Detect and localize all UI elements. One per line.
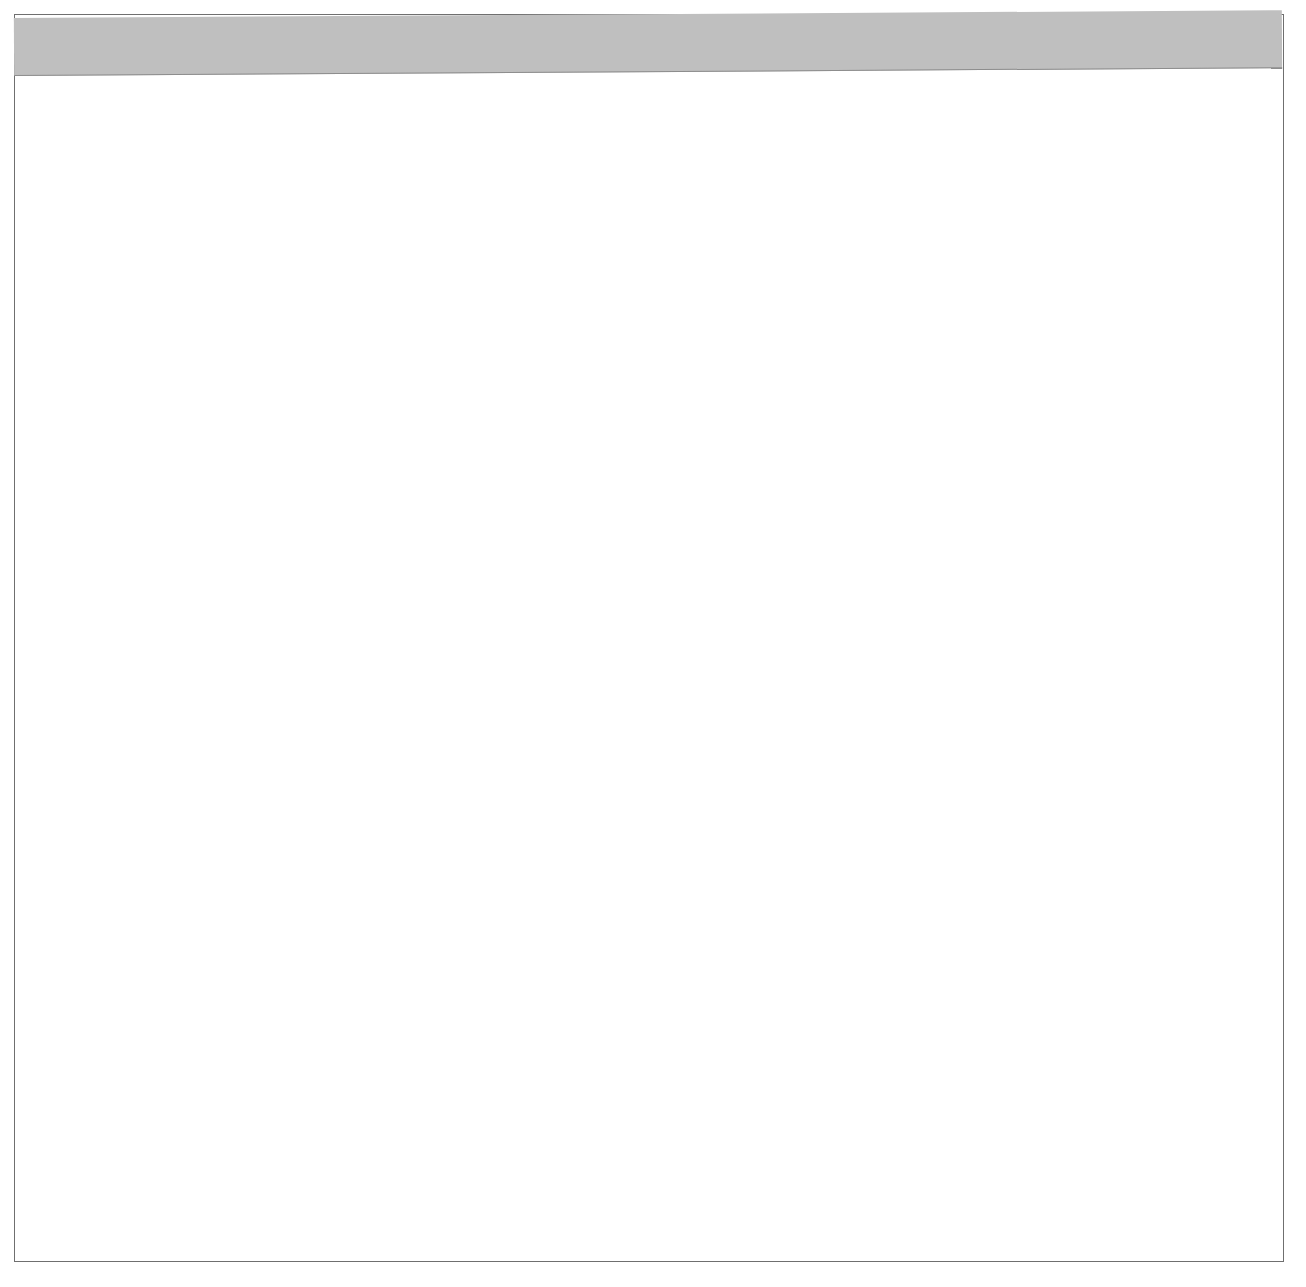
exhibit-frame — [14, 14, 1284, 1262]
exhibit-header-band — [14, 10, 1282, 76]
